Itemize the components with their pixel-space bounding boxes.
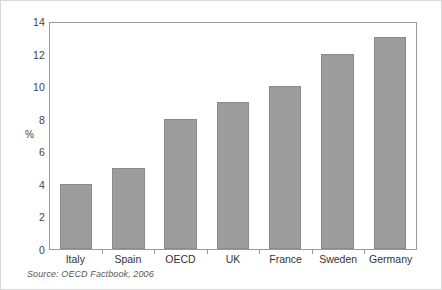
y-tick-label: 12 (33, 49, 45, 61)
plot-area (49, 22, 417, 250)
bar-italy[interactable] (60, 184, 92, 249)
bar-slot (102, 23, 154, 249)
y-tick-label: 0 (39, 244, 45, 256)
bar-slot (155, 23, 207, 249)
bars-layer (50, 23, 416, 249)
bar-slot (364, 23, 416, 249)
bar-slot (207, 23, 259, 249)
chart-figure: 02468101214 % ItalySpainOECDUKFranceSwed… (0, 0, 442, 290)
y-tick-label: 14 (33, 16, 45, 28)
x-tick-label-spain: Spain (102, 253, 155, 265)
y-tick-label: 2 (39, 211, 45, 223)
bar-sweden[interactable] (321, 54, 353, 249)
x-tick-label-italy: Italy (49, 253, 102, 265)
bar-slot (50, 23, 102, 249)
x-tick-label-oecd: OECD (154, 253, 207, 265)
x-tick-label-sweden: Sweden (312, 253, 365, 265)
y-tick-label: 8 (39, 114, 45, 126)
bar-slot (311, 23, 363, 249)
bar-france[interactable] (269, 86, 301, 249)
y-tick-label: 10 (33, 81, 45, 93)
bar-oecd[interactable] (164, 119, 196, 249)
x-tick-label-germany: Germany (364, 253, 417, 265)
x-tick-label-uk: UK (207, 253, 260, 265)
x-tick-label-france: France (259, 253, 312, 265)
source-note: Source: OECD Factbook, 2006 (27, 269, 154, 279)
y-axis-tick-labels: 02468101214 (1, 22, 45, 250)
bar-spain[interactable] (112, 168, 144, 249)
bar-uk[interactable] (217, 102, 249, 249)
y-axis-title: % (25, 129, 34, 140)
y-tick-label: 6 (39, 146, 45, 158)
bar-slot (259, 23, 311, 249)
y-tick-label: 4 (39, 179, 45, 191)
bar-germany[interactable] (374, 37, 406, 249)
